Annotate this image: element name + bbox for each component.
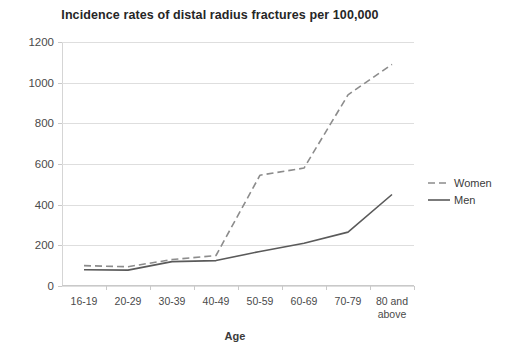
x-axis-tick [238,286,239,290]
legend-label: Women [454,177,492,189]
legend-swatch-icon [428,178,450,188]
plot-area: 020040060080010001200 16-1920-2930-3940-… [62,42,414,286]
x-axis-tick-label: 80 and above [366,295,418,321]
x-axis-tick [414,286,415,290]
y-axis-tick-label: 1000 [28,77,54,89]
chart-legend: WomenMen [428,174,492,208]
legend-item-men[interactable]: Men [428,191,492,208]
x-axis-tick [282,286,283,290]
chart-container: Incidence rates of distal radius fractur… [0,0,516,354]
x-axis-title: Age [60,330,410,342]
x-axis-tick [326,286,327,290]
y-axis-tick-label: 800 [35,117,54,129]
data-series-layer [62,42,414,286]
legend-label: Men [454,194,475,206]
y-axis-tick [58,286,62,287]
chart-title: Incidence rates of distal radius fractur… [0,8,440,22]
x-axis-tick [370,286,371,290]
y-axis-tick-label: 200 [35,239,54,251]
y-axis-tick-label: 0 [48,280,54,292]
y-axis-tick-label: 1200 [28,36,54,48]
x-axis-tick [150,286,151,290]
x-axis-tick [106,286,107,290]
series-line-women [84,64,392,266]
series-line-men [84,195,392,271]
legend-swatch-icon [428,195,450,205]
y-axis-tick-label: 600 [35,158,54,170]
x-axis-tick [194,286,195,290]
y-axis-tick-label: 400 [35,199,54,211]
legend-item-women[interactable]: Women [428,174,492,191]
